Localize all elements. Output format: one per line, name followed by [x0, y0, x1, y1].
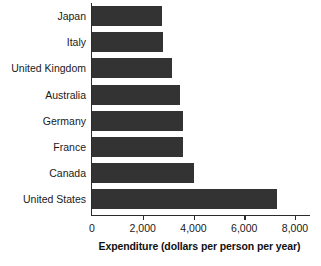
bar-row [92, 186, 310, 212]
bar-row [92, 160, 310, 186]
bar-row [92, 29, 310, 55]
bar [92, 32, 163, 52]
bar-row [92, 82, 310, 108]
plot-area [92, 3, 310, 216]
x-axis-tick-mark [295, 215, 296, 220]
bar [92, 137, 183, 157]
bar [92, 111, 183, 131]
x-axis-tick-label: 8,000 [282, 222, 308, 234]
bar [92, 163, 194, 183]
x-axis-tick-mark [143, 215, 144, 220]
category-label: Italy [0, 36, 86, 48]
bar-row [92, 3, 310, 29]
x-axis-tick-label: 6,000 [231, 222, 257, 234]
bar [92, 6, 162, 26]
x-axis-title-text: Expenditure (dollars per person per year… [21, 240, 301, 252]
category-label: Japan [0, 10, 86, 22]
bar-chart: JapanItalyUnited KingdomAustraliaGermany… [0, 0, 321, 266]
x-axis-tick-label: 2,000 [130, 222, 156, 234]
bar [92, 58, 172, 78]
x-axis-title: Expenditure (dollars per person per year… [0, 240, 321, 252]
category-label: United Kingdom [0, 62, 86, 74]
bar [92, 85, 180, 105]
bar-row [92, 108, 310, 134]
bar-row [92, 55, 310, 81]
category-label: Australia [0, 89, 86, 101]
category-label: United States [0, 193, 86, 205]
category-label: Canada [0, 167, 86, 179]
x-axis-tick-label: 0 [89, 222, 95, 234]
x-axis-tick-label: 4,000 [180, 222, 206, 234]
category-label: France [0, 141, 86, 153]
x-axis-tick-mark [244, 215, 245, 220]
bar [92, 189, 277, 209]
category-label: Germany [0, 115, 86, 127]
x-axis-tick-mark [194, 215, 195, 220]
bar-row [92, 134, 310, 160]
